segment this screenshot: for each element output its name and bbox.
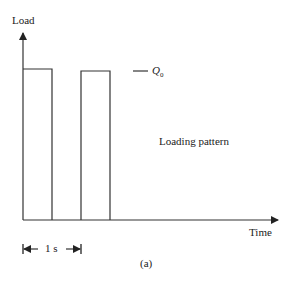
figure-caption: (a) (140, 257, 152, 269)
q0-subscript: 0 (160, 71, 164, 79)
load-pulse-1 (23, 69, 52, 220)
load-pulse-2 (81, 71, 110, 220)
q0-level-label: Q0 (152, 64, 163, 79)
loading-pattern-annotation: Loading pattern (159, 135, 229, 147)
period-label: 1 s (45, 242, 58, 254)
y-axis-label: Load (12, 14, 35, 26)
x-axis-label: Time (249, 226, 272, 238)
q0-symbol: Q (152, 64, 160, 76)
loading-pattern-diagram (0, 0, 295, 282)
